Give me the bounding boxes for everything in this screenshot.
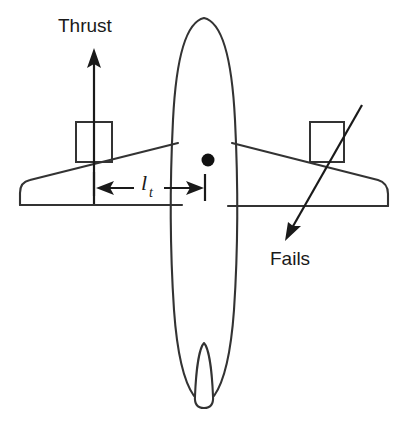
- moment-arm-symbol: l: [141, 170, 147, 195]
- moment-arm-subscript: t: [149, 185, 154, 200]
- vertical-stabilizer: [195, 343, 213, 408]
- fails-pointer-shaft: [292, 105, 362, 228]
- fails-label: Fails: [270, 248, 310, 269]
- fuselage-outline: [171, 18, 237, 396]
- left-wing-outline: [20, 143, 178, 205]
- thrust-label: Thrust: [58, 15, 113, 36]
- center-of-gravity-dot: [202, 154, 215, 167]
- right-engine-nacelle: [310, 122, 344, 162]
- diagram-canvas: Thrust Fails l t: [0, 0, 407, 430]
- aircraft-thrust-diagram: Thrust Fails l t: [0, 0, 407, 430]
